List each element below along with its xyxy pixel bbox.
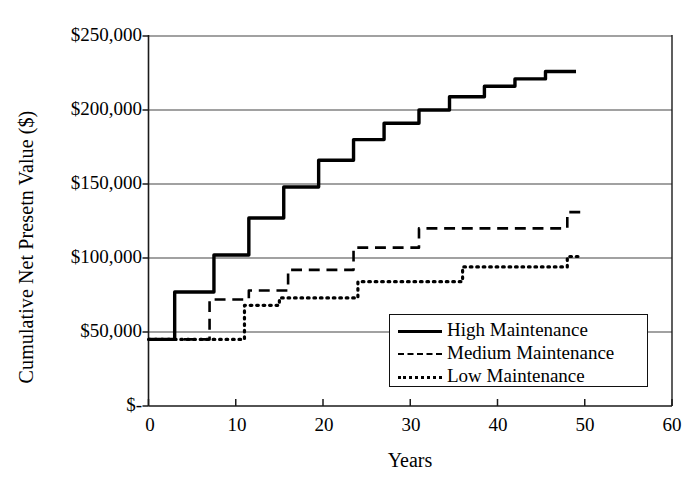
legend-solid-line-icon bbox=[396, 323, 442, 337]
plot-area bbox=[0, 0, 697, 494]
legend-item-medium: Medium Maintenance bbox=[396, 341, 641, 364]
legend-dashed-line-icon bbox=[396, 346, 442, 360]
legend-label: Medium Maintenance bbox=[447, 343, 614, 362]
legend-item-low: Low Maintenance bbox=[396, 364, 641, 387]
chart-figure: Cumulative Net Presetn Value ($) $250,00… bbox=[0, 0, 697, 494]
legend-label: Low Maintenance bbox=[447, 366, 585, 385]
legend-dotted-line-icon bbox=[396, 369, 442, 383]
legend-item-high: High Maintenance bbox=[396, 318, 641, 341]
chart-legend: High Maintenance Medium Maintenance Low … bbox=[389, 314, 648, 387]
series-line bbox=[149, 72, 577, 340]
legend-label: High Maintenance bbox=[447, 320, 588, 339]
